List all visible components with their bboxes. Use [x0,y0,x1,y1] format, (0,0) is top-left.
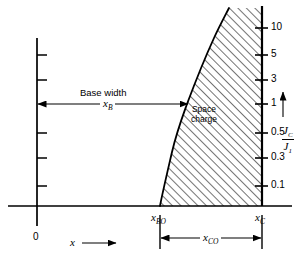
base-width-symbol: xB [100,98,115,112]
figure-space-charge-diagram: 10 5 3 1 0.5 0.3 0.1 JC J1 Base width xB… [0,0,301,259]
left-axis-ticks [37,55,47,186]
y-tick-label-1: 1 [271,98,277,108]
j1-denominator: J1 [282,140,294,155]
x-c-label: xC [255,212,265,226]
y-tick-label-3: 3 [271,74,277,84]
space-charge-line-2: charge [191,115,217,125]
y-tick-label-10: 10 [271,22,282,32]
y-tick-label-0-1: 0.1 [271,180,285,190]
space-charge-label: Space charge [191,105,217,125]
x-bo-label: xBO [151,212,166,226]
origin-label: 0 [33,232,39,242]
x-co-label: xCO [200,232,221,246]
y-tick-label-5: 5 [271,49,277,59]
x-axis-label: x [70,237,75,248]
y-axis-label-jc-j1: JC J1 [282,124,294,155]
jc-numerator: JC [282,124,294,140]
